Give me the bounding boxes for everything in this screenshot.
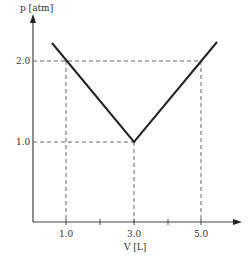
- x-axis-arrow-icon: [233, 219, 242, 225]
- y-axis-arrow-icon: [30, 14, 36, 23]
- process-line: [52, 42, 217, 142]
- y-tick-label-2: 2.0: [16, 56, 31, 66]
- x-tick-label-1: 1.0: [59, 229, 74, 239]
- x-axis-label: V [L]: [123, 242, 146, 252]
- y-tick-label-1: 1.0: [16, 137, 31, 147]
- x-tick-label-5: 5.0: [194, 229, 209, 239]
- x-tick-label-3: 3.0: [127, 229, 142, 239]
- y-axis-label: p [atm]: [20, 3, 53, 13]
- pv-diagram: p [atm] 2.0 1.0 1.0 3.0 5.0 V [L]: [0, 0, 248, 265]
